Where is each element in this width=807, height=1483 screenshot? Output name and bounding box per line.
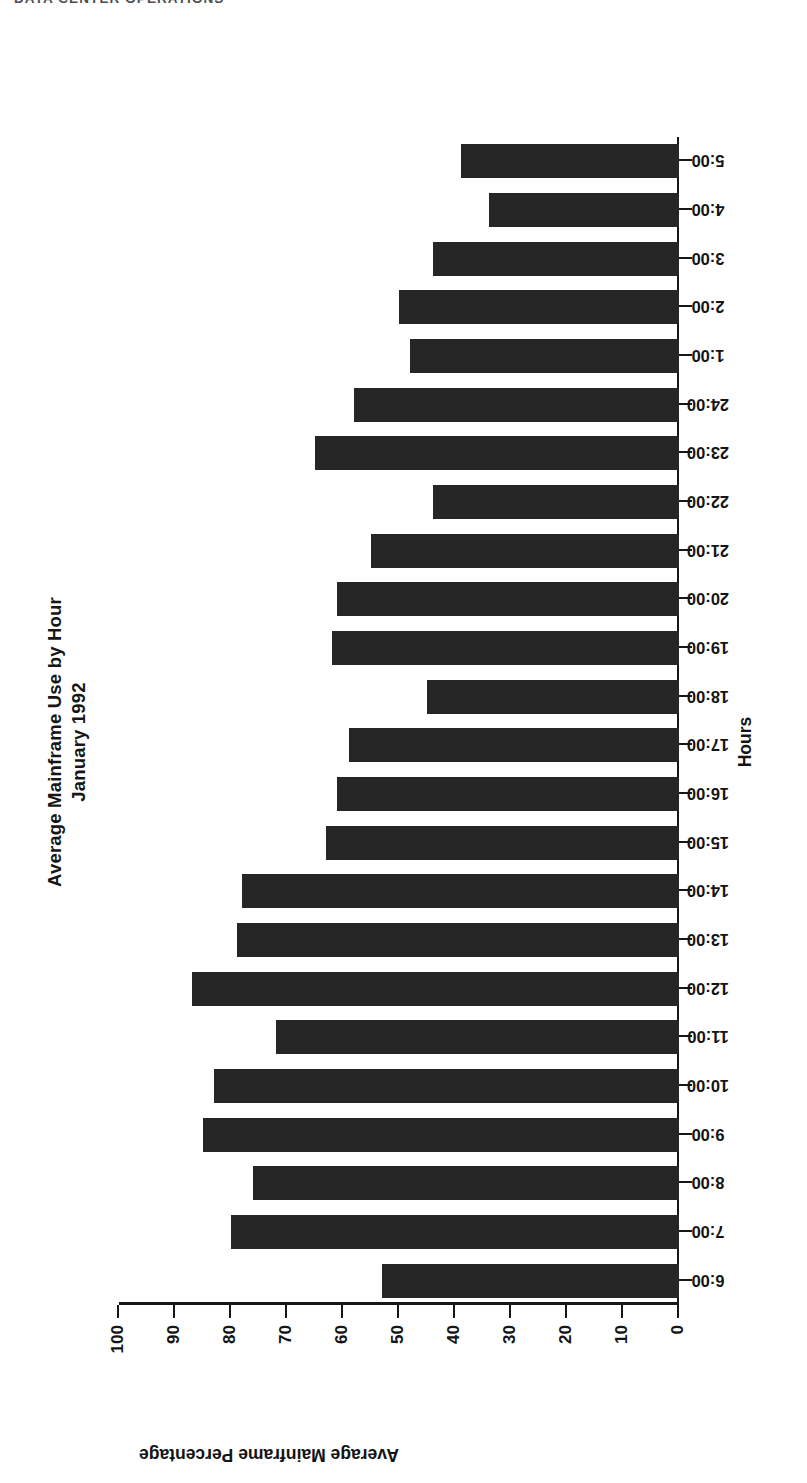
value-axis-tick: 80 [229,1305,231,1318]
bar[interactable] [488,192,678,226]
bar-slot [119,776,679,810]
bar-slot [119,582,679,616]
bar[interactable] [236,922,678,956]
bar[interactable] [382,1263,679,1297]
category-axis-tick-label: 4:00 [691,199,724,218]
bar-slot [119,290,679,324]
category-axis-tick: 4:00 [679,208,692,210]
bar[interactable] [460,144,678,178]
category-axis-tick: 18:00 [679,694,692,696]
bar[interactable] [331,630,678,664]
bar[interactable] [231,1214,679,1248]
value-axis-tick: 70 [285,1305,287,1318]
value-axis-tick: 30 [509,1305,511,1318]
bar-slot [119,728,679,762]
category-axis-tick: 24:00 [679,402,692,404]
category-axis-tick: 23:00 [679,451,692,453]
category-axis-tick: 6:00 [679,1278,692,1280]
value-axis-tick-label: 50 [388,1325,408,1344]
bar-slot [119,241,679,275]
bar[interactable] [337,776,679,810]
category-axis-tick: 9:00 [679,1132,692,1134]
category-axis-tick-label: 18:00 [686,686,728,705]
category-axis-tick: 15:00 [679,840,692,842]
bar-slot [119,1263,679,1297]
bar-slot [119,630,679,664]
category-axis-tick: 22:00 [679,500,692,502]
bar[interactable] [203,1117,679,1151]
category-axis-tick-label: 11:00 [687,1026,728,1045]
bar-slot [119,484,679,518]
category-axis-tick-label: 16:00 [686,783,728,802]
bar[interactable] [214,1068,679,1102]
value-axis-tick: 0 [677,1305,679,1318]
bar-slot [119,874,679,908]
value-axis-tick: 60 [341,1305,343,1318]
bar-slot [119,971,679,1005]
category-axis-tick: 20:00 [679,597,692,599]
bar[interactable] [348,728,678,762]
category-axis-tick-label: 20:00 [686,588,728,607]
bar[interactable] [432,484,678,518]
category-axis-tick-label: 24:00 [686,394,728,413]
bar[interactable] [253,1166,679,1200]
value-axis-tick: 40 [453,1305,455,1318]
category-axis-tick-label: 9:00 [691,1124,724,1143]
bar-slot [119,1020,679,1054]
category-axis-title: Hours [735,27,756,1457]
category-axis-tick-label: 23:00 [686,442,728,461]
value-axis-tick-label: 20 [556,1325,576,1344]
value-axis-tick-label: 40 [444,1325,464,1344]
category-axis-tick-label: 2:00 [691,296,724,315]
chart-title-block: Average Mainframe Use by Hour January 19… [43,27,92,1457]
bar[interactable] [337,582,679,616]
value-axis-tick: 100 [117,1305,119,1318]
category-axis-tick-label: 6:00 [691,1270,724,1289]
plot-area: 0102030405060708090100 6:007:008:009:001… [119,137,679,1305]
category-axis-tick-label: 22:00 [686,491,728,510]
bar[interactable] [275,1020,678,1054]
value-axis-tick-label: 100 [108,1325,128,1353]
value-axis-tick: 50 [397,1305,399,1318]
bar[interactable] [242,874,679,908]
category-axis-tick: 2:00 [679,305,692,307]
bar[interactable] [354,387,679,421]
bar[interactable] [432,241,678,275]
bar[interactable] [427,679,679,713]
category-axis-tick: 16:00 [679,792,692,794]
value-axis-tick-label: 70 [276,1325,296,1344]
category-axis-tick: 21:00 [679,548,692,550]
bar-slot [119,387,679,421]
bar[interactable] [315,436,679,470]
category-axis-tick-label: 3:00 [691,248,724,267]
value-axis-tick-label: 80 [220,1325,240,1344]
bar[interactable] [191,971,678,1005]
bar[interactable] [326,825,679,859]
category-axis-tick: 8:00 [679,1181,692,1183]
category-axis-tick-label: 21:00 [686,540,728,559]
value-axis-tick: 10 [621,1305,623,1318]
value-axis-tick-label: 90 [164,1325,184,1344]
bar-slot [119,825,679,859]
bar[interactable] [399,290,679,324]
bar[interactable] [410,338,679,372]
category-axis-tick-label: 8:00 [691,1172,724,1191]
bar-slot [119,1117,679,1151]
category-axis-tick: 17:00 [679,743,692,745]
bar[interactable] [371,533,679,567]
category-axis-tick-label: 13:00 [686,929,728,948]
category-axis-tick: 10:00 [679,1084,692,1086]
category-axis-tick-label: 7:00 [691,1221,724,1240]
category-axis-tick: 14:00 [679,889,692,891]
bar-slot [119,192,679,226]
bar-slot [119,338,679,372]
value-axis-tick: 90 [173,1305,175,1318]
category-axis-tick: 13:00 [679,938,692,940]
category-axis-tick-label: 12:00 [686,978,728,997]
category-axis-tick: 1:00 [679,354,692,356]
bar-slot [119,922,679,956]
category-axis-tick-label: 10:00 [686,1075,728,1094]
category-axis-tick: 12:00 [679,986,692,988]
category-axis-tick-label: 1:00 [691,345,724,364]
value-axis-tick-label: 0 [668,1325,688,1334]
